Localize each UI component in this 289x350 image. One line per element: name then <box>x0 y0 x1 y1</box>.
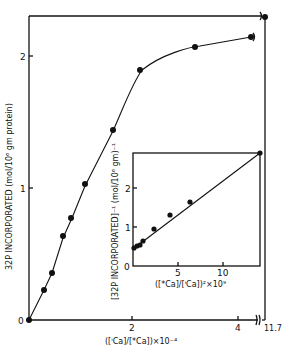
inset-y-tick-2: 2 <box>125 184 131 194</box>
inset-y-axis-label: [32P INCORPORATED]⁻¹ (mol/10⁶ gm)⁻¹ <box>111 143 120 300</box>
chart-canvas: 0 1 2 2 4 11.7 ([ⁱCa]/[*Ca])×10⁻⁴ 32P IN… <box>0 0 289 350</box>
inset-x-axis-label: ([*Ca]/[ⁱCa])²×10⁹ <box>155 280 226 289</box>
main-y-tick-1: 1 <box>20 184 26 194</box>
inset-x-tick-10: 10 <box>217 268 229 278</box>
main-x-tick-4: 4 <box>235 323 241 333</box>
inset-x-tick-5: 5 <box>175 268 181 278</box>
main-y-tick-0: 0 <box>18 316 24 326</box>
main-x-tick-2: 2 <box>129 323 135 333</box>
main-x-break-label: 11.7 <box>264 324 282 333</box>
inset-frame <box>133 153 260 266</box>
main-y-tick-2: 2 <box>20 52 26 62</box>
inset-y-tick-0: 0 <box>124 262 130 272</box>
inset-fit-line <box>133 153 260 249</box>
main-data-points <box>26 14 268 323</box>
main-x-axis-label: ([ⁱCa]/[*Ca])×10⁻⁴ <box>105 337 177 346</box>
main-y-axis-label: 32P INCORPORATED (mol/10⁶ gm protein) <box>5 103 14 270</box>
inset-y-tick-1: 1 <box>125 223 131 233</box>
